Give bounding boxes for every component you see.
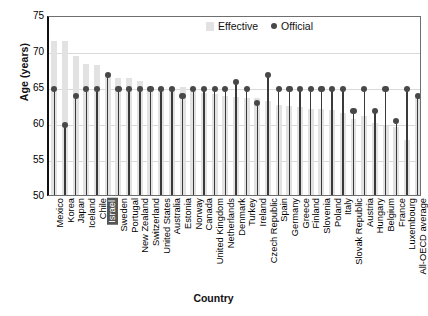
- x-axis-tick-label: Norway: [195, 198, 204, 230]
- chart-column: [316, 17, 327, 195]
- legend-bar-swatch-icon: [206, 22, 214, 31]
- chart-legend: Effective Official: [206, 20, 313, 32]
- official-marker: [179, 93, 185, 99]
- y-axis-tick-labels: 505560657075: [22, 0, 44, 316]
- x-axis-tick-label: Greece: [302, 198, 311, 229]
- official-stem: [193, 87, 194, 195]
- x-axis-tick-label: Denmark: [238, 198, 247, 236]
- chart-column: [134, 17, 145, 195]
- x-axis-tick-labels: MexicoKoreaJapanIcelandChileIsraelSweden…: [47, 198, 421, 286]
- x-axis-tick-label: Australia: [173, 198, 182, 234]
- official-marker: [329, 86, 335, 92]
- x-axis-tick-label: Estonia: [184, 198, 193, 229]
- official-stem: [321, 87, 322, 195]
- official-marker: [404, 86, 410, 92]
- x-axis-tick-label: Spain: [280, 198, 289, 222]
- official-stem: [139, 87, 140, 195]
- x-axis-tick-label: Austria: [366, 198, 375, 227]
- chart-column: [102, 17, 113, 195]
- official-stem: [299, 87, 300, 195]
- x-axis-tick-label: Germany: [291, 198, 300, 236]
- official-stem: [278, 87, 279, 195]
- official-marker: [212, 86, 218, 92]
- chart-column: [412, 17, 421, 195]
- official-stem: [75, 94, 76, 195]
- x-axis-tick-label: United States: [163, 198, 172, 254]
- official-stem: [107, 73, 108, 195]
- chart-column: [380, 17, 391, 195]
- chart-column: [92, 17, 103, 195]
- official-marker: [393, 118, 399, 124]
- official-marker: [222, 86, 228, 92]
- x-axis-tick-label: Israel: [107, 198, 118, 225]
- official-stem: [246, 87, 247, 195]
- chart-column: [284, 17, 295, 195]
- chart-column: [327, 17, 338, 195]
- chart-column: [220, 17, 231, 195]
- x-axis-tick-label: All-OECD average: [419, 198, 428, 274]
- x-axis-tick-label: Mexico: [56, 198, 65, 227]
- official-marker: [201, 86, 207, 92]
- chart-column: [167, 17, 178, 195]
- official-stem: [118, 87, 119, 195]
- official-stem: [160, 87, 161, 195]
- y-axis-tick-label: 55: [22, 155, 44, 165]
- official-stem: [225, 87, 226, 195]
- y-axis-tick-label: 60: [22, 119, 44, 129]
- official-marker: [244, 86, 250, 92]
- chart-column: [60, 17, 71, 195]
- official-stem: [331, 87, 332, 195]
- chart-column: [402, 17, 413, 195]
- official-marker: [297, 86, 303, 92]
- x-axis-tick-label: Finland: [312, 198, 321, 229]
- official-stem: [353, 109, 354, 195]
- official-marker: [318, 86, 324, 92]
- official-stem: [128, 87, 129, 195]
- chart-column: [263, 17, 274, 195]
- official-marker: [73, 93, 79, 99]
- y-axis-tick-label: 75: [22, 11, 44, 21]
- official-marker: [308, 86, 314, 92]
- chart-column: [273, 17, 284, 195]
- chart-column: [49, 17, 60, 195]
- official-stem: [203, 87, 204, 195]
- official-marker: [233, 79, 239, 85]
- official-stem: [86, 87, 87, 195]
- x-axis-tick-label: Belgium: [387, 198, 396, 232]
- official-stem: [214, 87, 215, 195]
- x-axis-tick-label: New Zealand: [141, 198, 150, 253]
- official-stem: [257, 101, 258, 195]
- legend-label-effective: Effective: [218, 20, 258, 32]
- official-marker: [361, 86, 367, 92]
- x-axis-tick-label: Netherlands: [227, 198, 236, 248]
- chart-column: [188, 17, 199, 195]
- x-axis-tick-label: Hungary: [376, 198, 385, 233]
- official-stem: [364, 87, 365, 195]
- chart-column: [295, 17, 306, 195]
- official-marker: [137, 86, 143, 92]
- official-stem: [267, 73, 268, 195]
- official-stem: [150, 87, 151, 195]
- official-stem: [374, 109, 375, 195]
- official-stem: [417, 94, 418, 195]
- legend-dot-swatch-icon: [271, 23, 277, 29]
- chart-column: [209, 17, 220, 195]
- chart-column: [241, 17, 252, 195]
- chart-column: [370, 17, 381, 195]
- chart-column: [338, 17, 349, 195]
- chart-column: [231, 17, 242, 195]
- official-marker: [372, 108, 378, 114]
- official-marker: [265, 72, 271, 78]
- official-marker: [340, 86, 346, 92]
- chart-column: [156, 17, 167, 195]
- x-axis-tick-label: Portugal: [131, 198, 140, 233]
- x-axis-tick-label: Poland: [334, 198, 343, 227]
- x-axis-tick-label: United Kingdom: [216, 198, 225, 264]
- x-axis-tick-label: Korea: [67, 198, 76, 223]
- official-marker: [415, 93, 421, 99]
- official-stem: [342, 87, 343, 195]
- official-stem: [310, 87, 311, 195]
- official-stem: [235, 80, 236, 195]
- chart-column: [391, 17, 402, 195]
